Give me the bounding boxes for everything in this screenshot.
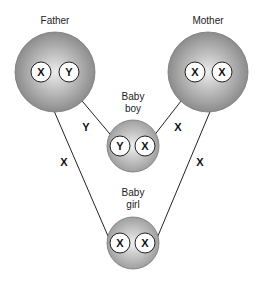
father-chromosome-y-label: Y (65, 66, 73, 78)
mother-chromosome-x2-label: X (218, 66, 226, 78)
father-chromosome-x-label: X (37, 66, 45, 78)
edge-label-father-x-girl: X (60, 156, 68, 168)
baby-boy-chromosome-x-label: X (141, 140, 149, 152)
baby-girl-label-line1: Baby (122, 187, 145, 198)
baby-girl-label-line2: girl (126, 199, 139, 210)
baby-girl-chromosome-x1-label: X (116, 237, 124, 249)
baby-boy-chromosome-y-label: Y (116, 140, 124, 152)
baby-boy-label-line1: Baby (122, 91, 145, 102)
mother-label: Mother (192, 15, 224, 26)
inheritance-diagram: Father X Y Mother X X Y X X X Baby boy Y… (0, 0, 258, 284)
baby-girl-node: Baby girl X X (107, 187, 159, 269)
baby-boy-label-line2: boy (125, 103, 141, 114)
edge-label-mother-x-boy: X (174, 121, 182, 133)
father-label: Father (41, 15, 71, 26)
father-circle (15, 32, 95, 112)
baby-girl-chromosome-x2-label: X (141, 237, 149, 249)
mother-node: Mother X X (168, 15, 248, 112)
edge-label-father-y: Y (82, 121, 90, 133)
mother-chromosome-x1-label: X (191, 66, 199, 78)
edge-label-mother-x-girl: X (196, 156, 204, 168)
father-node: Father X Y (15, 15, 95, 112)
baby-boy-node: Baby boy Y X (107, 91, 159, 172)
mother-circle (168, 32, 248, 112)
